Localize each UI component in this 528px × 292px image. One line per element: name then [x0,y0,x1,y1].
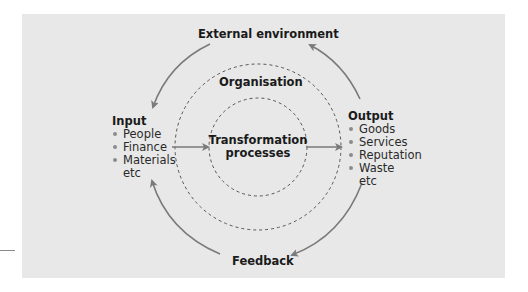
output-etc: etc [348,175,422,188]
arrow-output-to-external [310,45,360,99]
transformation-line-2: processes [208,147,308,160]
feedback-label: Feedback [232,255,294,268]
input-etc: etc [112,167,176,180]
output-item: Waste [348,162,422,175]
input-item: Materials [112,154,176,167]
external-environment-label: External environment [198,28,339,41]
input-list: People Finance Materials [112,128,176,167]
organisation-label: Organisation [219,76,303,89]
arrow-external-to-input [153,44,210,107]
arrow-feedback-to-input [152,181,220,254]
input-block: Input People Finance Materials etc [112,115,176,180]
output-block: Output Goods Services Reputation Waste e… [348,110,422,188]
output-list: Goods Services Reputation Waste [348,123,422,175]
transformation-processes-label: Transformation processes [208,134,308,160]
